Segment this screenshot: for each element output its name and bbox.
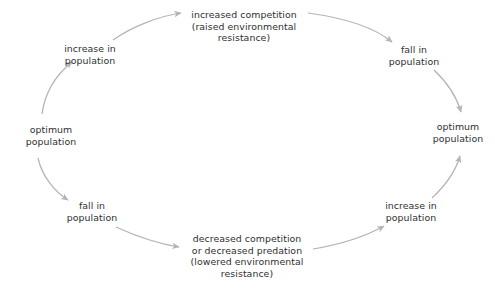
node-optimum-population-right: optimum population — [433, 121, 483, 144]
arrow-decreased-competition-to-increase-bottom — [313, 226, 384, 249]
arrow-optimum-left-to-increase — [42, 62, 72, 114]
arrow-fall-to-optimum-right — [434, 70, 461, 112]
node-increase-in-population-bottom-right: increase in population — [385, 200, 437, 223]
node-increased-competition-top: increased competition (raised environmen… — [191, 9, 296, 44]
arrow-increase-bottom-to-optimum-right — [432, 156, 460, 198]
node-decreased-competition-bottom: decreased competition or decreased preda… — [191, 233, 304, 279]
population-cycle-diagram: optimum population increase in populatio… — [0, 0, 495, 289]
node-fall-in-population-bottom-left: fall in population — [67, 200, 117, 223]
node-fall-in-population-top-right: fall in population — [389, 44, 439, 67]
arrow-optimum-left-to-fall-bottom — [38, 158, 68, 200]
arrow-fall-bottom-to-decreased-competition — [116, 227, 179, 247]
arrow-increase-to-increased-competition — [113, 13, 181, 40]
node-optimum-population-left: optimum population — [26, 124, 76, 147]
node-increase-in-population-top-left: increase in population — [64, 43, 116, 66]
arrow-increased-competition-to-fall — [308, 13, 392, 42]
